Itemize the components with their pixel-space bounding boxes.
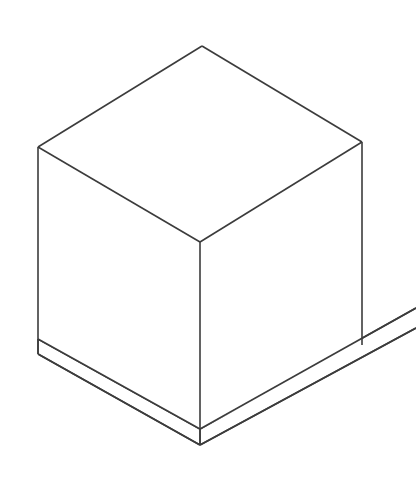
drawing-canvas	[0, 0, 416, 495]
isometric-cube-drawing	[0, 0, 416, 495]
